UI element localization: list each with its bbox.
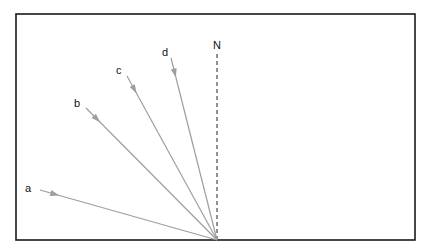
ray-b: b	[74, 97, 217, 240]
ray-c-line	[127, 76, 217, 240]
ray-c-label: c	[116, 64, 122, 76]
ray-d: d	[162, 46, 217, 240]
ray-d-line	[171, 58, 217, 240]
ray-a-label: a	[25, 182, 32, 194]
ray-diagram: N a b c d	[0, 0, 427, 251]
ray-b-label: b	[74, 97, 80, 109]
ray-d-label: d	[162, 46, 168, 58]
north-label: N	[213, 39, 221, 51]
ray-c-arrow-icon	[130, 84, 137, 93]
ray-c: c	[116, 64, 217, 240]
ray-a-line	[40, 190, 217, 240]
ray-d-arrow-icon	[171, 68, 177, 78]
ray-a-arrow-icon	[50, 190, 59, 196]
ray-b-line	[86, 108, 217, 240]
